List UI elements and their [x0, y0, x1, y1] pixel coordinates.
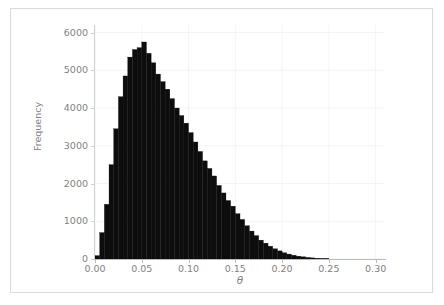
histogram-bar	[170, 99, 175, 259]
x-tick-label: 0.20	[259, 263, 305, 274]
y-axis-line	[94, 25, 95, 260]
histogram-bar	[118, 97, 123, 259]
histogram-bar	[235, 214, 240, 259]
histogram-bar	[212, 176, 217, 259]
x-tick-mark	[329, 260, 330, 263]
y-tick-label: 2000	[46, 179, 88, 189]
histogram-bar	[165, 89, 170, 259]
x-tick-label: 0.05	[119, 263, 165, 274]
histogram-bar	[277, 251, 282, 259]
y-tick-mark	[91, 146, 94, 147]
histogram-bar	[217, 185, 222, 259]
histogram-bar	[128, 57, 133, 259]
histogram-bar	[100, 233, 105, 259]
histogram-bar	[263, 243, 268, 259]
histogram-bar	[189, 133, 194, 259]
histogram-bar	[226, 201, 231, 260]
y-axis-title: Frequency	[32, 72, 43, 182]
y-tick-mark	[91, 108, 94, 109]
histogram-bar	[245, 226, 250, 259]
histogram-bar	[221, 193, 226, 259]
x-axis-line	[94, 259, 386, 260]
histogram-figure: 6000500040003000200010000 0.000.050.100.…	[0, 0, 444, 305]
histogram-bar	[240, 219, 245, 259]
y-tick-mark	[91, 33, 94, 34]
x-tick-mark	[189, 260, 190, 263]
histogram-bar	[259, 240, 264, 259]
histogram-bar	[160, 82, 165, 259]
plot-area	[95, 25, 385, 259]
x-tick-label: 0.10	[166, 263, 212, 274]
x-tick-mark	[142, 260, 143, 263]
y-tick-label: 4000	[46, 103, 88, 113]
histogram-bar	[132, 50, 137, 259]
histogram-bars	[95, 25, 385, 259]
histogram-bar	[273, 249, 278, 259]
x-tick-label: 0.15	[212, 263, 258, 274]
x-tick-mark	[282, 260, 283, 263]
histogram-bar	[268, 246, 273, 259]
y-tick-mark	[91, 259, 94, 260]
x-tick-label: 0.00	[72, 263, 118, 274]
y-tick-label: 3000	[46, 141, 88, 151]
y-tick-mark	[91, 184, 94, 185]
x-tick-mark	[235, 260, 236, 263]
y-tick-labels: 6000500040003000200010000	[40, 0, 88, 305]
histogram-bar	[175, 108, 180, 259]
histogram-bar	[179, 116, 184, 259]
histogram-bar	[151, 63, 156, 259]
histogram-bar	[249, 231, 254, 259]
x-axis-title: θ	[0, 274, 444, 286]
y-tick-label: 1000	[46, 216, 88, 226]
histogram-bar	[231, 206, 236, 259]
histogram-bar	[184, 123, 189, 259]
histogram-bar	[193, 142, 198, 259]
x-tick-mark	[95, 260, 96, 263]
histogram-bar	[146, 53, 151, 259]
x-tick-label: 0.25	[306, 263, 352, 274]
histogram-bar	[142, 42, 147, 259]
y-tick-mark	[91, 70, 94, 71]
histogram-bar	[203, 161, 208, 259]
histogram-bar	[137, 48, 142, 259]
x-tick-label: 0.30	[353, 263, 399, 274]
x-tick-mark	[376, 260, 377, 263]
y-tick-label: 5000	[46, 65, 88, 75]
histogram-bar	[114, 129, 119, 259]
y-tick-label: 6000	[46, 28, 88, 38]
histogram-bar	[198, 151, 203, 259]
histogram-bar	[207, 168, 212, 259]
histogram-bar	[104, 204, 109, 259]
histogram-bar	[123, 76, 128, 259]
histogram-bar	[156, 74, 161, 259]
y-tick-mark	[91, 221, 94, 222]
histogram-bar	[109, 165, 114, 259]
histogram-bar	[254, 236, 259, 259]
